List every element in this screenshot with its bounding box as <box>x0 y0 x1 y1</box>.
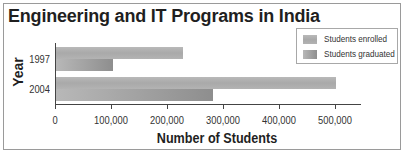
x-tick-label: 100,000 <box>94 114 128 126</box>
x-axis-label: Number of Students <box>20 130 386 146</box>
x-tick <box>335 105 336 109</box>
x-tick-label: 400,000 <box>262 114 296 126</box>
x-tick-label: 200,000 <box>150 114 184 126</box>
x-tick <box>223 105 224 109</box>
y-category-2004: 2004 <box>16 83 50 95</box>
x-tick <box>279 105 280 109</box>
x-tick <box>167 105 168 109</box>
bar-2004-enrolled <box>56 77 336 89</box>
legend-swatch-enrolled <box>303 35 317 44</box>
y-category-1997: 1997 <box>16 53 50 65</box>
legend-item-enrolled: Students enrolled <box>303 33 394 45</box>
legend-item-graduated: Students graduated <box>303 48 403 60</box>
bar-1997-enrolled <box>56 47 183 59</box>
x-tick-label: 300,000 <box>206 114 240 126</box>
x-tick-label: 500,000 <box>318 114 352 126</box>
legend-label-graduated: Students graduated <box>324 49 395 59</box>
legend: Students enrolled Students graduated <box>296 28 398 64</box>
bar-1997-graduated <box>56 59 113 71</box>
x-tick <box>55 105 56 109</box>
x-tick-label: 0 <box>52 114 57 126</box>
x-axis-line <box>55 104 361 105</box>
legend-label-enrolled: Students enrolled <box>324 34 387 44</box>
x-tick <box>111 105 112 109</box>
legend-swatch-graduated <box>303 50 317 59</box>
bar-2004-graduated <box>56 89 213 101</box>
chart-title: Engineering and IT Programs in India <box>8 6 320 27</box>
